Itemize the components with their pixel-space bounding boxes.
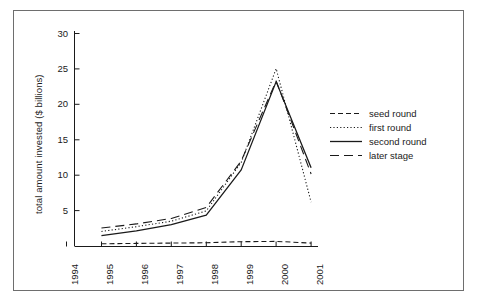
x-tick-label-1999: 1999 [245, 264, 255, 285]
series-line-later-stage [101, 81, 311, 228]
chart-figure: total amount invested ($ billions) 30 25… [0, 0, 477, 302]
x-tick-label-1998: 1998 [210, 264, 220, 285]
data-series-group [101, 69, 311, 244]
legend-label-first-round: first round [369, 123, 411, 133]
y-tick-label-5: 5 [46, 206, 68, 216]
y-axis-title: total amount invested ($ billions) [33, 74, 44, 214]
legend-swatches [330, 114, 362, 156]
series-line-second-round [101, 82, 311, 236]
x-tick-label-1996: 1996 [140, 264, 150, 285]
x-tick-label-1995: 1995 [105, 264, 115, 285]
legend-label-seed-round: seed round [369, 109, 417, 119]
legend-label-later-stage: later stage [369, 151, 413, 161]
x-tick-label-1997: 1997 [175, 264, 185, 285]
y-tick-label-10: 10 [46, 170, 68, 180]
x-tick-label-2001: 2001 [315, 264, 325, 285]
x-tick-label-1994: 1994 [70, 264, 80, 285]
y-tick-label-25: 25 [46, 64, 68, 74]
series-line-first-round [101, 69, 311, 232]
y-tick-label-15: 15 [46, 135, 68, 145]
y-tick-label-30: 30 [46, 29, 68, 39]
legend-label-second-round: second round [369, 137, 427, 147]
x-tick-label-2000: 2000 [280, 264, 290, 285]
y-tick-label-20: 20 [46, 99, 68, 109]
y-axis-ticks [75, 34, 80, 211]
